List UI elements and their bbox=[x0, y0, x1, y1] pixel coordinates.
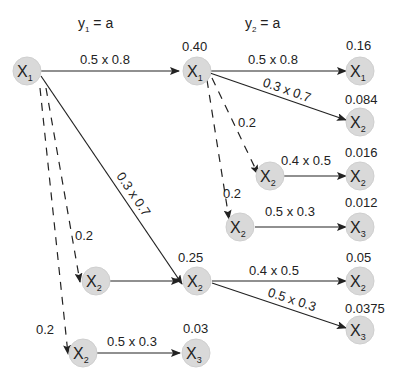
node-step1-x3: 0.03 X3 bbox=[182, 321, 210, 367]
node-step2-x2-a: X2 bbox=[256, 162, 284, 190]
svg-text:0.3 x 0.7: 0.3 x 0.7 bbox=[114, 169, 154, 219]
node-out-x1: 0.16 X1 bbox=[346, 38, 374, 85]
node-step2-x2-b: X2 bbox=[226, 213, 254, 241]
edge-x1-to-x2: 0.3 x 0.7 bbox=[210, 73, 346, 120]
svg-text:y2 = a: y2 = a bbox=[245, 15, 280, 34]
node-step1-x2-bottom: X2 bbox=[69, 339, 97, 367]
svg-text:0.016: 0.016 bbox=[345, 145, 378, 160]
svg-text:0.5 x 0.3: 0.5 x 0.3 bbox=[265, 204, 315, 219]
node-out-x2-05: 0.05 X2 bbox=[346, 250, 374, 295]
svg-text:0.03: 0.03 bbox=[183, 321, 208, 336]
header-step-2: y2 = a bbox=[245, 15, 280, 34]
svg-text:0.2: 0.2 bbox=[36, 322, 54, 337]
edge-x2-to-x2: 0.4 x 0.5 bbox=[212, 263, 346, 281]
svg-text:0.5 x 0.8: 0.5 x 0.8 bbox=[248, 52, 298, 67]
node-out-x3-012: 0.012 X3 bbox=[345, 195, 378, 241]
node-root-x1: X1 bbox=[13, 57, 41, 85]
node-out-x2-084: 0.084 X2 bbox=[345, 92, 378, 136]
svg-text:0.084: 0.084 bbox=[345, 92, 378, 107]
svg-text:0.2: 0.2 bbox=[223, 186, 241, 201]
svg-text:0.2: 0.2 bbox=[75, 228, 93, 243]
node-step1-x1: 0.40 X1 bbox=[182, 39, 211, 85]
edge-x2a-to-x2: 0.4 x 0.5 bbox=[281, 153, 346, 176]
node-step1-x2-left: X2 bbox=[82, 267, 110, 295]
svg-text:0.16: 0.16 bbox=[346, 38, 371, 53]
node-out-x3-0375: 0.0375 X3 bbox=[345, 301, 385, 344]
header-step-1: y1 = a bbox=[78, 15, 113, 34]
edge-x1-dash-to-x2-b: 0.2 bbox=[207, 80, 241, 219]
svg-text:0.0375: 0.0375 bbox=[345, 301, 385, 316]
edge-x2-to-x3: 0.5 x 0.3 bbox=[212, 283, 346, 328]
edge-root-to-x1: 0.5 x 0.8 bbox=[40, 52, 179, 71]
svg-text:0.4 x 0.5: 0.4 x 0.5 bbox=[281, 153, 331, 168]
edge-x1-dash-to-x2-a: 0.2 bbox=[212, 78, 258, 174]
edge-root-dash-to-x2-bottom: 0.2 bbox=[36, 88, 68, 354]
node-out-x2-016: 0.016 X2 bbox=[345, 145, 378, 190]
svg-text:0.25: 0.25 bbox=[178, 250, 203, 265]
edge-x1-to-x1: 0.5 x 0.8 bbox=[210, 52, 346, 71]
node-step1-x2-main: 0.25 X2 bbox=[178, 250, 211, 295]
svg-text:0.3 x 0.7: 0.3 x 0.7 bbox=[261, 75, 313, 105]
svg-text:0.5 x 0.3: 0.5 x 0.3 bbox=[107, 334, 157, 349]
svg-text:y1 = a: y1 = a bbox=[78, 15, 113, 34]
svg-text:0.05: 0.05 bbox=[346, 250, 371, 265]
svg-text:0.40: 0.40 bbox=[182, 39, 207, 54]
edge-x2-bottom-to-x3: 0.5 x 0.3 bbox=[97, 334, 180, 353]
svg-text:0.5 x 0.8: 0.5 x 0.8 bbox=[80, 52, 130, 67]
edge-x2b-to-x3: 0.5 x 0.3 bbox=[255, 204, 346, 227]
trellis-diagram: y1 = a y2 = a 0.5 x 0.8 0.3 x 0.7 0.2 0.… bbox=[0, 0, 406, 386]
svg-text:0.012: 0.012 bbox=[345, 195, 378, 210]
svg-text:0.4 x 0.5: 0.4 x 0.5 bbox=[249, 263, 299, 278]
svg-text:0.2: 0.2 bbox=[238, 115, 256, 130]
